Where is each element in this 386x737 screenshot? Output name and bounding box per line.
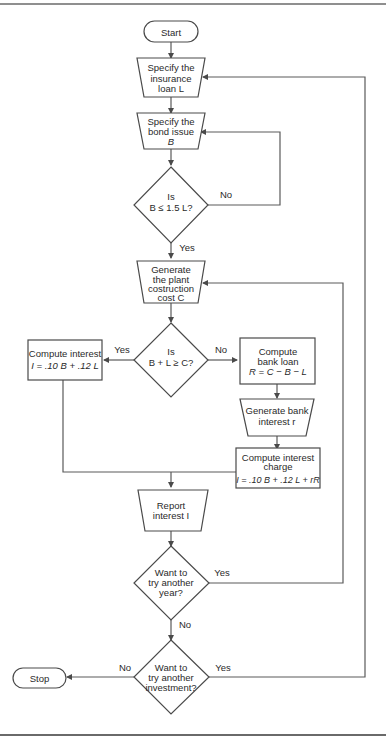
specify-insurance-loan-node: Specify the insurance loan L — [137, 58, 205, 97]
svg-text:Stop: Stop — [30, 673, 50, 684]
edge-label-no: No — [179, 619, 191, 630]
report-interest-node: Report interest I — [138, 490, 208, 531]
connectors — [63, 42, 365, 677]
generate-bank-interest-node: Generate bank interest r — [240, 399, 314, 436]
compute-interest-charge-node: Compute interest charge I = .10 B + .12 … — [236, 448, 320, 488]
svg-text:Is: Is — [167, 191, 175, 202]
funds-sufficient-decision: Is B + L ≥ C? — [134, 323, 208, 397]
svg-text:I = .10 B + .12 L: I = .10 B + .12 L — [31, 360, 99, 371]
compute-bank-loan-node: Compute bank loan R = C − B − L — [240, 338, 315, 384]
edge-label-yes: Yes — [114, 344, 130, 355]
edge-label-yes: Yes — [179, 242, 195, 253]
bond-limit-decision: Is B ≤ 1.5 L? — [134, 167, 208, 243]
svg-text:interest I: interest I — [153, 510, 189, 521]
stop-terminal: Stop — [13, 668, 66, 688]
svg-text:year?: year? — [159, 587, 183, 598]
edge-label-no: No — [220, 189, 232, 200]
another-investment-decision: Want to try another investment? — [134, 640, 209, 714]
svg-text:Start: Start — [161, 27, 181, 38]
svg-text:R = C − B − L: R = C − B − L — [249, 366, 307, 377]
svg-text:Specify the: Specify the — [148, 62, 195, 73]
specify-bond-issue-node: Specify the bond issue B — [137, 113, 205, 149]
generate-construction-cost-node: Generate the plant costruction cost C — [137, 261, 205, 303]
start-terminal: Start — [144, 21, 198, 42]
another-year-decision: Want to try another year? — [134, 546, 209, 620]
svg-text:loan L: loan L — [158, 83, 184, 94]
svg-text:insurance: insurance — [150, 73, 191, 84]
edge-label-yes: Yes — [214, 567, 230, 578]
svg-text:B + L ≥ C?: B + L ≥ C? — [149, 357, 194, 368]
svg-text:cost C: cost C — [158, 292, 185, 303]
svg-text:charge: charge — [263, 461, 292, 472]
edge-label-no: No — [119, 662, 131, 673]
svg-text:Generate bank: Generate bank — [246, 405, 309, 416]
edge-label-no: No — [215, 344, 227, 355]
svg-text:Compute interest: Compute interest — [29, 348, 102, 359]
flowchart: Start Specify the insurance loan L Speci… — [0, 0, 386, 737]
svg-text:investment?: investment? — [145, 682, 196, 693]
svg-text:Is: Is — [167, 346, 175, 357]
svg-text:I = .10 B + .12 L + rR: I = .10 B + .12 L + rR — [236, 475, 320, 485]
edge-label-yes: Yes — [215, 662, 231, 673]
svg-text:interest r: interest r — [259, 416, 296, 427]
svg-text:B: B — [168, 136, 175, 147]
svg-text:B ≤ 1.5 L?: B ≤ 1.5 L? — [149, 202, 192, 213]
compute-interest-node: Compute interest I = .10 B + .12 L — [28, 340, 102, 380]
